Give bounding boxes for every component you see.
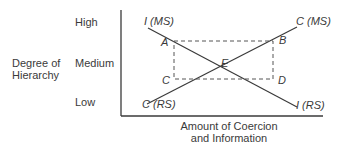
c-rs-label: C (RS) <box>142 98 176 110</box>
i-rs-label: I (RS) <box>296 99 325 111</box>
x-axis-title-line2: and Information <box>159 132 299 142</box>
point-d-label: D <box>278 74 286 86</box>
i-ms-label: I (MS) <box>144 15 174 27</box>
point-e-label: E <box>221 57 228 69</box>
y-axis-title-line2: Hierarchy <box>12 69 60 81</box>
y-axis-title-line1: Degree of <box>12 57 60 69</box>
y-tick-medium: Medium <box>75 57 114 69</box>
point-a-label: A <box>161 36 168 48</box>
point-b-label: B <box>279 34 286 46</box>
x-axis-title-line1: Amount of Coercion <box>159 120 299 132</box>
point-c-label: C <box>162 74 170 86</box>
x-axis-title: Amount of Coercion and Information <box>159 120 299 142</box>
c-ms-label: C (MS) <box>296 15 331 27</box>
y-tick-high: High <box>75 16 98 28</box>
y-axis-title: Degree of Hierarchy <box>12 57 60 81</box>
y-tick-low: Low <box>75 96 95 108</box>
